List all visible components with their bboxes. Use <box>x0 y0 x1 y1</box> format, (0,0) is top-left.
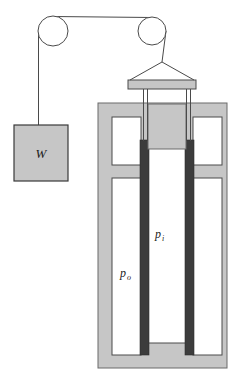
pulley-right <box>138 17 166 45</box>
vessel-cavity-upper-right <box>193 117 222 165</box>
vessel-cavity-lower-left <box>112 178 141 355</box>
cable-top-span <box>53 17 152 18</box>
crossbar <box>128 80 196 89</box>
pulley-left <box>38 16 68 46</box>
yoke-sling <box>130 62 194 80</box>
figure-canvas: W p i p o <box>0 0 242 383</box>
inner-pressure-subscript: i <box>162 234 164 243</box>
inner-pressure-label: p <box>154 227 161 241</box>
vessel-cavity-lower-right <box>193 178 222 355</box>
yoke-right-leg <box>162 62 194 80</box>
vessel-inner-column-cavity <box>148 148 186 343</box>
yoke-left-leg <box>130 62 162 80</box>
outer-pressure-label: p <box>119 266 126 280</box>
inner-cylinder-wall-left <box>140 140 149 355</box>
vessel-cavity-upper-left <box>112 117 141 165</box>
piston-head <box>148 104 186 149</box>
outer-pressure-subscript: o <box>127 273 131 282</box>
weight-label: W <box>36 146 48 161</box>
schematic-drawing: W p i p o <box>0 0 242 383</box>
inner-cylinder-wall-right <box>185 140 194 355</box>
